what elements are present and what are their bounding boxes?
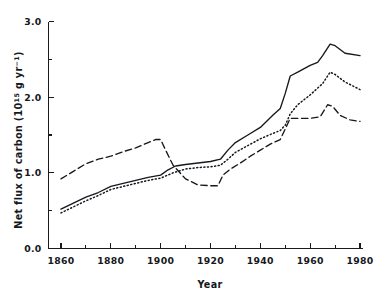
chart-plot-area: 0.01.02.03.01860188019001920194019601980… xyxy=(0,0,379,293)
y-axis-title-exponent-neg1: −1 xyxy=(13,56,21,67)
y-axis-title: Net flux of carbon (1015 g yr−1) xyxy=(13,51,24,229)
x-axis-title: Year xyxy=(196,279,222,290)
y-axis-title-mid: g yr xyxy=(13,67,24,93)
y-tick-label-2: 2.0 xyxy=(24,92,42,103)
y-axis-title-suffix: ) xyxy=(13,51,24,56)
x-tick-label-2: 1900 xyxy=(147,255,174,266)
x-tick-label-1: 1880 xyxy=(97,255,124,266)
x-tick-label-4: 1940 xyxy=(247,255,274,266)
data-series-group xyxy=(61,44,360,213)
axes-group xyxy=(49,22,363,249)
dotted-curve xyxy=(61,72,360,213)
x-tick-label-6: 1980 xyxy=(346,255,373,266)
carbon-flux-chart-figure: 0.01.02.03.01860188019001920194019601980… xyxy=(0,0,379,293)
x-tick-label-3: 1920 xyxy=(197,255,224,266)
y-tick-label-0: 0.0 xyxy=(24,243,42,254)
x-tick-label-5: 1960 xyxy=(297,255,324,266)
solid-curve xyxy=(61,44,360,209)
y-axis-title-exponent-15: 15 xyxy=(13,93,21,103)
y-tick-label-3: 3.0 xyxy=(24,16,42,27)
x-tick-label-0: 1860 xyxy=(47,255,74,266)
tick-labels-group: 0.01.02.03.01860188019001920194019601980 xyxy=(24,16,374,266)
axis-spines xyxy=(49,22,363,249)
y-axis-title-prefix: Net flux of carbon (10 xyxy=(13,102,24,228)
y-tick-label-1: 1.0 xyxy=(24,167,42,178)
dashed-curve xyxy=(61,105,360,186)
